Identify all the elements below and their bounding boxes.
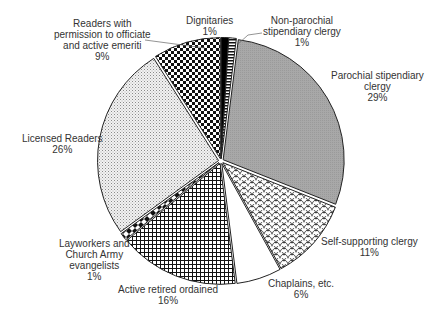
label-licensed: Licensed Readers 26% [22,133,103,155]
label-parochial: Parochial stipendiary clergy 29% [331,70,424,103]
pie-slices [98,38,345,285]
label-layworkers: Layworkers and Church Army evangelists 1… [59,238,130,282]
label-activeretired: Active retired ordained 16% [118,284,218,306]
label-chaplains: Chaplains, etc. 6% [268,278,334,300]
label-dignitaries: Dignitaries 1% [186,15,233,37]
label-selfsupporting: Self-supporting clergy 11% [321,236,418,258]
label-nonparochial: Non-parochial stipendiary clergy 1% [263,15,341,48]
label-readersperm: Readers with permission to officiate and… [54,18,151,62]
